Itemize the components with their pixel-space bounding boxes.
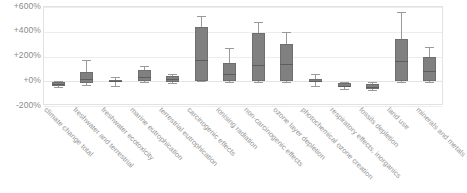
whisker-cap-lower (282, 82, 291, 83)
plot-area (43, 6, 443, 105)
whisker-cap-lower (254, 82, 263, 83)
whisker-cap-upper (197, 16, 206, 17)
whisker-cap-upper (311, 74, 320, 75)
boxplot-item (366, 7, 379, 104)
boxplot-item (109, 7, 122, 104)
median-line (366, 87, 379, 88)
x-tick-label: freshwater ecotoxicity (100, 106, 156, 162)
whisker-cap-upper (225, 48, 234, 49)
whisker-upper (258, 22, 259, 33)
whisker-upper (229, 48, 230, 62)
boxplot-item (223, 7, 236, 104)
y-tick-label: +0% (0, 76, 41, 85)
median-line (309, 81, 322, 82)
whisker-cap-lower (111, 86, 120, 87)
y-tick-label: +400% (0, 26, 41, 35)
median-line (166, 79, 179, 80)
whisker-cap-lower (311, 86, 320, 87)
whisker-cap-lower (140, 82, 149, 83)
boxplot-item (195, 7, 208, 104)
whisker-cap-upper (82, 60, 91, 61)
boxplot-series (44, 7, 442, 104)
whisker-cap-lower (397, 82, 406, 83)
whisker-cap-lower (368, 90, 377, 91)
x-tick-label: land use (385, 106, 410, 131)
whisker-cap-lower (197, 81, 206, 82)
boxplot-item (52, 7, 65, 104)
box-rect (195, 27, 208, 80)
box-rect (80, 72, 93, 83)
whisker-cap-lower (425, 82, 434, 83)
boxplot-item (338, 7, 351, 104)
whisker-cap-lower (225, 82, 234, 83)
median-line (138, 77, 151, 78)
whisker-upper (86, 60, 87, 72)
boxplot-item (166, 7, 179, 104)
boxplot-item (252, 7, 265, 104)
whisker-cap-lower (340, 89, 349, 90)
box-rect (423, 57, 436, 81)
median-line (223, 74, 236, 75)
y-axis: +600%+400%+200%+0%-200% (0, 0, 41, 110)
boxplot-item (280, 7, 293, 104)
x-tick-label: ozone layer depletion (271, 106, 326, 161)
whisker-upper (201, 16, 202, 28)
median-line (109, 81, 122, 82)
median-line (338, 86, 351, 87)
boxplot-item (80, 7, 93, 104)
whisker-cap-lower (168, 83, 177, 84)
box-rect (395, 39, 408, 81)
whisker-upper (286, 32, 287, 44)
whisker-cap-upper (397, 12, 406, 13)
boxplot-item (395, 7, 408, 104)
whisker-cap-lower (54, 87, 63, 88)
median-line (280, 64, 293, 65)
median-line (395, 61, 408, 62)
whisker-upper (429, 47, 430, 57)
whisker-cap-upper (140, 66, 149, 67)
boxplot-item (423, 7, 436, 104)
box-rect (280, 44, 293, 81)
boxplot-item (309, 7, 322, 104)
whisker-cap-upper (425, 47, 434, 48)
whisker-cap-upper (282, 32, 291, 33)
x-tick-label: minerals and metals (414, 106, 467, 159)
boxplot-item (138, 7, 151, 104)
y-tick-label: +600% (0, 2, 41, 11)
box-rect (138, 70, 151, 81)
whisker-cap-upper (254, 22, 263, 23)
median-line (252, 65, 265, 66)
whisker-upper (401, 12, 402, 39)
y-tick-label: +200% (0, 51, 41, 60)
whisker-cap-lower (82, 85, 91, 86)
x-axis: climate change totalfreshwater and terre… (0, 106, 449, 193)
median-line (80, 79, 93, 80)
median-line (52, 84, 65, 85)
box-rect (252, 33, 265, 81)
median-line (195, 60, 208, 61)
x-tick-label: marine eutrophication (128, 106, 184, 162)
whisker-cap-upper (111, 77, 120, 78)
box-rect (223, 63, 236, 82)
median-line (423, 71, 436, 72)
